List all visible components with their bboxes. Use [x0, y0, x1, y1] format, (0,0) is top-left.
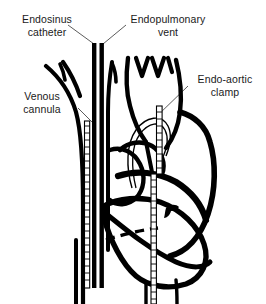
venous-cannula-body	[85, 121, 90, 288]
brachiocephalic-branch	[136, 58, 148, 76]
svc-right-wall	[108, 62, 112, 250]
anatomical-figure: Endosinus catheter Endopulmonary vent Ve…	[0, 0, 266, 304]
label-endosinus-catheter: Endosinus catheter	[8, 13, 86, 38]
leader-venous	[78, 108, 92, 122]
endosinus-catheter-shaft	[92, 43, 96, 288]
apex-vessel-right	[176, 280, 177, 304]
heart-diagram-illustration	[0, 0, 266, 304]
label-endo-aortic-clamp: Endo-aortic clamp	[188, 73, 262, 98]
endo-aortic-distal-shaft	[151, 174, 156, 304]
endosinus-catheter-device	[92, 43, 96, 288]
endopulmonary-vent-device	[100, 43, 104, 288]
endopulmonary-vent-shaft	[100, 43, 104, 288]
label-venous-cannula: Venous cannula	[6, 90, 78, 115]
venous-cannula-device	[85, 121, 90, 288]
right-vein-hook	[112, 63, 116, 82]
label-endopulmonary-vent: Endopulmonary vent	[120, 13, 216, 38]
left-subclavian-branch	[168, 58, 172, 72]
left-carotid-branch	[152, 58, 164, 76]
